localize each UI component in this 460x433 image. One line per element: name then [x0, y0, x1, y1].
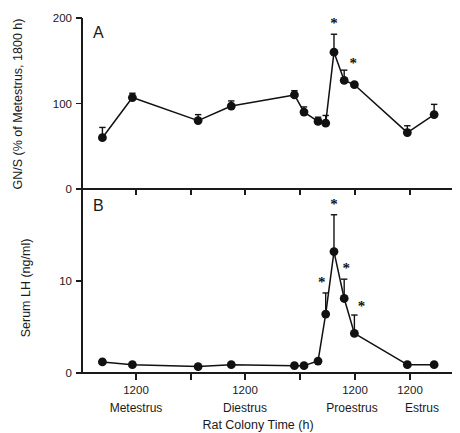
- data-line: [102, 52, 434, 138]
- data-point: [194, 362, 203, 371]
- x-axis-tick-labels: 1200 1200 1200 1200: [123, 384, 423, 396]
- data-point: [330, 48, 339, 57]
- figure-container: GN/S (% of Metestrus, 1800 h) Serum LH (…: [0, 0, 460, 433]
- panel-b-y-axis-title: Serum LH (ng/ml): [19, 239, 33, 338]
- panel-a-ytick-label-200: 200: [53, 12, 72, 24]
- data-point: [350, 329, 359, 338]
- panel-a-xticks: [136, 189, 410, 195]
- data-point: [314, 357, 323, 366]
- significance-asterisk: *: [330, 196, 338, 212]
- xtick-label-estrus: 1200: [397, 384, 423, 396]
- data-point: [98, 358, 107, 367]
- data-point: [128, 93, 137, 102]
- stage-label-estrus: Estrus: [405, 401, 439, 415]
- panel-b-ytick-label-10: 10: [59, 275, 72, 287]
- significance-asterisk: *: [342, 260, 350, 276]
- significance-asterisk: *: [318, 274, 326, 290]
- xtick-label-proestrus: 1200: [342, 384, 368, 396]
- significance-asterisk: *: [330, 15, 338, 31]
- data-point: [430, 360, 439, 369]
- data-point: [350, 80, 359, 89]
- significance-asterisk: *: [358, 298, 366, 314]
- data-point: [403, 360, 412, 369]
- panel-b-letter: B: [93, 197, 104, 214]
- xtick-label-metestrus: 1200: [123, 384, 149, 396]
- data-point: [321, 119, 330, 128]
- data-point: [340, 294, 349, 303]
- panel-a-ytick-label-100: 100: [53, 98, 72, 110]
- x-axis-title: Rat Colony Time (h): [202, 418, 313, 432]
- panel-a-y-axis-title: GN/S (% of Metestrus, 1800 h): [11, 19, 25, 190]
- panel-a-data-series: **: [98, 15, 439, 142]
- panel-a-letter: A: [93, 24, 104, 41]
- data-point: [98, 133, 107, 142]
- data-point: [300, 108, 309, 117]
- xtick-label-diestrus: 1200: [232, 384, 258, 396]
- panel-b-data-series: ****: [98, 196, 439, 371]
- data-point: [290, 91, 299, 100]
- stage-labels: Metestrus Diestrus Proestrus Estrus: [110, 401, 439, 415]
- data-point: [314, 117, 323, 126]
- data-point: [330, 247, 339, 256]
- data-point: [430, 110, 439, 119]
- data-point: [290, 361, 299, 370]
- data-point: [340, 76, 349, 85]
- panel-a: 200 100 0 A **: [53, 12, 452, 195]
- data-point: [227, 360, 236, 369]
- stage-label-proestrus: Proestrus: [326, 401, 377, 415]
- significance-asterisk: *: [349, 55, 357, 71]
- figure-svg: GN/S (% of Metestrus, 1800 h) Serum LH (…: [0, 0, 460, 433]
- data-point: [128, 360, 137, 369]
- data-point: [321, 310, 330, 319]
- panel-b-ytick-label-0: 0: [66, 367, 72, 379]
- data-line: [102, 252, 434, 367]
- panel-a-ytick-label-0: 0: [66, 183, 72, 195]
- data-point: [227, 102, 236, 111]
- panel-b-xticks: [136, 373, 410, 380]
- stage-label-metestrus: Metestrus: [110, 401, 163, 415]
- stage-label-diestrus: Diestrus: [223, 401, 267, 415]
- data-point: [403, 128, 412, 137]
- panel-b: 10 0 B ****: [59, 189, 452, 380]
- data-point: [300, 361, 309, 370]
- data-point: [194, 116, 203, 125]
